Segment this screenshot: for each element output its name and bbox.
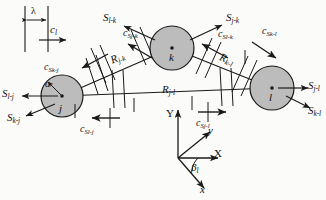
body-l [250,66,310,110]
arrow-cS-l-j [92,108,120,128]
body-k-label: k [169,52,174,63]
S-l-k-label: Sl-k [103,12,116,23]
body-l-label: l [269,92,272,103]
local-axes [178,132,210,188]
R-j-l-label: Rj-l [162,84,175,95]
cS-k-l-label: cSk-l [262,26,277,36]
cS-k-j-label: cSk-j [44,62,59,72]
cS-j-k-label: cSj-k [123,28,138,38]
cS-l-k-label: cSl-k [218,29,233,39]
body-j [22,75,83,117]
S-l-j-label: Sl-j [2,88,14,99]
c-l-label: cl [50,24,57,35]
S-k-l-label: Sk-l [308,105,321,116]
diagram-canvas: λ cl j k l a Rj-k Rj-l Rk-l Sl-j Sk-j Sl… [0,0,326,200]
axis-x-local-label: x [200,184,205,195]
radius-a-label: a [45,79,50,89]
axis-y-local-label: y [208,125,213,136]
arrow-cS-k-l [252,42,276,58]
S-j-l-label: Sj-l [308,80,320,91]
diagram-vectors [0,0,326,200]
axis-Y-label: Y [166,108,174,119]
body-j-label: j [59,103,62,114]
beta-l-label: βl [191,162,198,173]
S-k-j-label: Sk-j [7,112,20,123]
axis-X-label: X [214,148,222,159]
cS-l-j-label: cSl-j [80,124,94,134]
S-j-k-label: Sj-k [226,12,239,23]
lambda-label: λ [31,6,36,16]
